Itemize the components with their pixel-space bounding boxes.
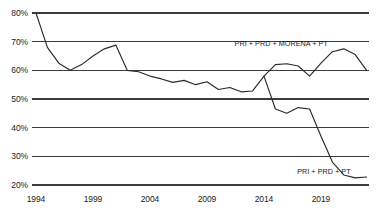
x-tick-1994: 1994 xyxy=(27,194,46,204)
data-series xyxy=(36,13,367,178)
y-tick-80: 80% xyxy=(11,8,28,18)
y-tick-40: 40% xyxy=(11,123,28,133)
series-annotations: PRI + PRD + MORENA + PT PRI + PRD + PT xyxy=(235,39,352,176)
y-tick-60: 60% xyxy=(11,65,28,75)
line-chart-figure: 80% 70% 60% 50% 40% 30% 20% 1994 1999 20… xyxy=(0,0,377,213)
series-line-pri-prd-morena-pt xyxy=(36,13,367,92)
chart-canvas: 80% 70% 60% 50% 40% 30% 20% 1994 1999 20… xyxy=(0,0,377,213)
series-label-pri-prd-morena-pt: PRI + PRD + MORENA + PT xyxy=(235,39,329,48)
x-axis-labels: 1994 1999 2004 2009 2014 2019 xyxy=(27,194,331,204)
x-tick-2009: 2009 xyxy=(198,194,217,204)
y-axis-labels: 80% 70% 60% 50% 40% 30% 20% xyxy=(11,8,28,190)
y-tick-20: 20% xyxy=(11,180,28,190)
x-tick-2019: 2019 xyxy=(312,194,331,204)
x-tick-2014: 2014 xyxy=(255,194,274,204)
y-tick-50: 50% xyxy=(11,94,28,104)
y-tick-30: 30% xyxy=(11,151,28,161)
x-tick-1999: 1999 xyxy=(84,194,103,204)
y-tick-70: 70% xyxy=(11,37,28,47)
series-label-pri-prd-pt: PRI + PRD + PT xyxy=(297,167,351,176)
series-line-pri-prd-pt xyxy=(264,76,367,178)
x-tick-2004: 2004 xyxy=(141,194,160,204)
